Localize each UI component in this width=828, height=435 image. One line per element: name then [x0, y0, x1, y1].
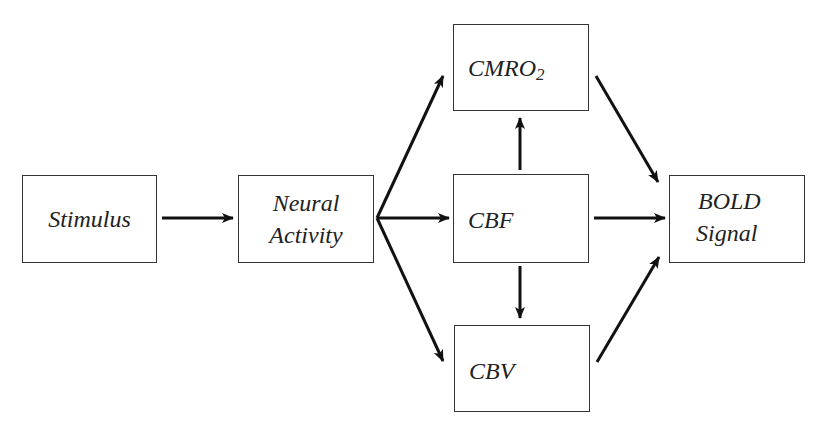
neural-label-line2: Activity	[239, 220, 373, 250]
node-neural-activity: Neural Activity	[238, 175, 374, 263]
node-stimulus: Stimulus	[22, 175, 157, 263]
node-bold-signal: BOLD Signal	[669, 175, 805, 263]
stimulus-label: Stimulus	[23, 204, 156, 234]
cmro2-label-text: CMRO	[468, 55, 536, 81]
bold-label-line2: Signal	[696, 218, 757, 248]
node-cbv: CBV	[454, 325, 590, 412]
cmro2-subscript: 2	[536, 65, 545, 84]
arrow-cmro2-to-bold	[596, 76, 658, 182]
arrow-neural-to-cbv	[377, 218, 443, 361]
cbf-label: CBF	[468, 205, 513, 235]
neural-label-line1: Neural	[239, 188, 373, 218]
cbv-label: CBV	[469, 356, 514, 386]
arrow-cbv-to-bold	[597, 257, 659, 362]
cmro2-label: CMRO2	[468, 53, 545, 90]
bold-label-line1: BOLD	[698, 186, 761, 216]
node-cbf: CBF	[453, 174, 589, 263]
node-cmro2: CMRO2	[453, 24, 589, 111]
arrow-neural-to-cmro2	[377, 76, 443, 218]
